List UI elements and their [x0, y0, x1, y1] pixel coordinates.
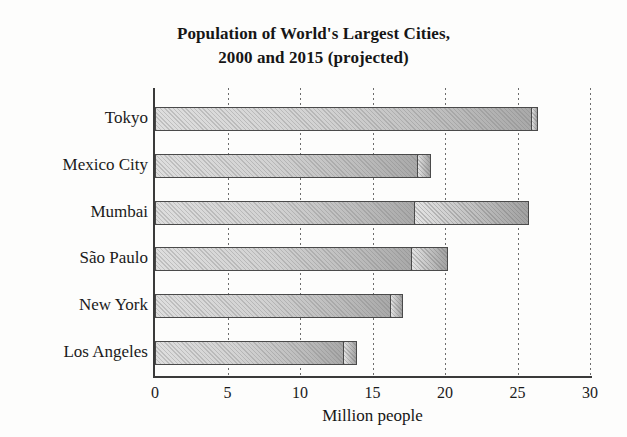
bar-s-o-paulo [155, 247, 448, 271]
bar-segment-2015 [417, 155, 430, 177]
bar-segment-2015 [390, 295, 402, 317]
y-axis-category-labels: Tokyo Mexico City Mumbai São Paulo New Y… [8, 96, 148, 376]
bar-segment-2000 [156, 295, 390, 317]
x-tick-label-5: 5 [208, 384, 248, 402]
x-tick-label-0: 0 [135, 384, 175, 402]
gridline-30 [590, 88, 591, 376]
chart-title: Population of World's Largest Cities, 20… [0, 22, 627, 70]
chart-figure: Population of World's Largest Cities, 20… [0, 0, 627, 437]
plot-area [155, 96, 590, 376]
bar-segment-2015 [411, 248, 447, 270]
y-axis-label-mexico-city: Mexico City [8, 155, 148, 175]
bar-new-york [155, 294, 403, 318]
x-tick-label-10: 10 [280, 384, 320, 402]
bar-segment-2000 [156, 108, 531, 130]
bar-segment-2015 [343, 342, 356, 364]
bar-tokyo [155, 107, 538, 131]
x-axis-title: Million people [155, 406, 590, 426]
y-axis-label-sao-paulo: São Paulo [8, 248, 148, 268]
y-axis-label-los-angeles: Los Angeles [8, 342, 148, 362]
y-axis-label-tokyo: Tokyo [8, 108, 148, 128]
bar-segment-2000 [156, 155, 417, 177]
bar-segment-2015 [414, 202, 528, 224]
bar-segment-2000 [156, 248, 411, 270]
chart-title-line-2: 2000 and 2015 (projected) [0, 46, 627, 70]
y-axis-label-mumbai: Mumbai [8, 202, 148, 222]
chart-title-line-1: Population of World's Largest Cities, [177, 24, 450, 43]
x-tick-label-30: 30 [570, 384, 610, 402]
x-tick-label-25: 25 [498, 384, 538, 402]
bar-mexico-city [155, 154, 431, 178]
bar-mumbai [155, 201, 529, 225]
x-tick-label-20: 20 [425, 384, 465, 402]
x-tick-label-15: 15 [353, 384, 393, 402]
bar-segment-2015 [531, 108, 537, 130]
y-axis-label-new-york: New York [8, 295, 148, 315]
bar-los-angeles [155, 341, 357, 365]
bar-segment-2000 [156, 342, 343, 364]
x-axis-line [153, 376, 592, 378]
bar-segment-2000 [156, 202, 414, 224]
